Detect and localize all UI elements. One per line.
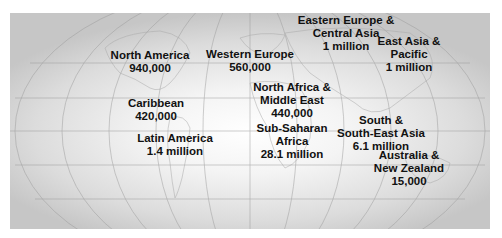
region-name-line1: East Asia & [378,35,441,48]
region-label-north-america: North America 940,000 [111,49,190,75]
region-value: 1 million [378,61,441,74]
region-label-western-europe: Western Europe 560,000 [206,48,294,74]
region-value: 15,000 [374,175,444,188]
region-value: 940,000 [111,62,190,75]
region-name-line1: Sub-Saharan [257,122,328,135]
region-name-line2: Middle East [253,94,331,107]
region-label-east-asia-pacific: East Asia & Pacific 1 million [378,35,441,74]
region-name-line1: Eastern Europe & [298,14,395,27]
region-label-latin-america: Latin America 1.4 million [137,132,213,158]
region-name-line2: Pacific [378,48,441,61]
region-value: 560,000 [206,61,294,74]
region-label-australia-new-zealand: Australia & New Zealand 15,000 [374,149,444,188]
region-label-south-southeast-asia: South & South-East Asia 6.1 million [337,114,425,153]
region-name-line2: South-East Asia [337,127,425,140]
region-name-line2: Africa [257,135,328,148]
region-name-line1: South & [337,114,425,127]
region-name-line2: New Zealand [374,162,444,175]
region-name: Latin America [137,132,213,145]
region-value: 420,000 [128,110,184,123]
region-name-line1: Australia & [374,149,444,162]
region-label-sub-saharan-africa: Sub-Saharan Africa 28.1 million [257,122,328,161]
region-value: 1.4 million [137,145,213,158]
region-name: Western Europe [206,48,294,61]
region-name-line1: North Africa & [253,81,331,94]
region-value: 440,000 [253,107,331,120]
region-value: 28.1 million [257,148,328,161]
region-label-caribbean: Caribbean 420,000 [128,97,184,123]
region-name: Caribbean [128,97,184,110]
region-label-north-africa-middle-east: North Africa & Middle East 440,000 [253,81,331,120]
region-name: North America [111,49,190,62]
